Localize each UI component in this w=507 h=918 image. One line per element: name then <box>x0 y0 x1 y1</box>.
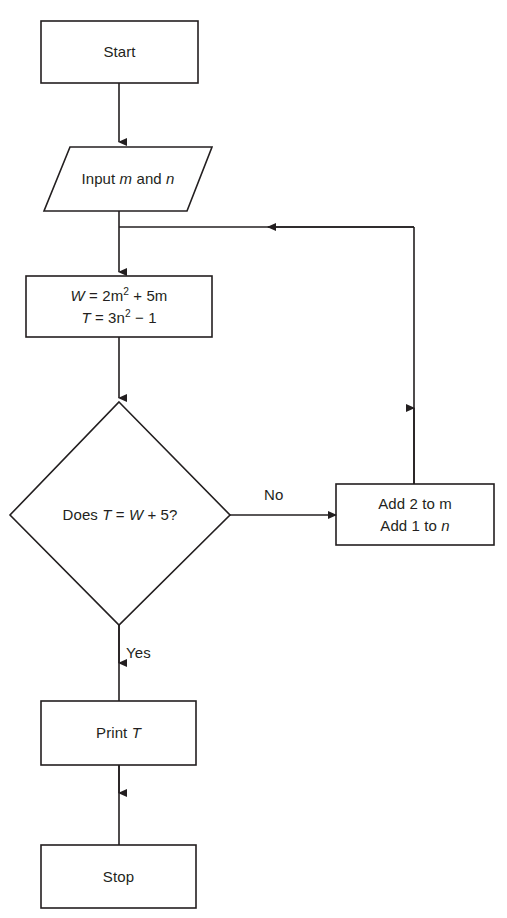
update-box-shape <box>336 484 494 545</box>
print-box-shape <box>41 701 196 765</box>
edge-label-no: No <box>264 486 283 503</box>
process-box-shape <box>26 276 212 337</box>
decision-diamond-shape <box>10 402 230 625</box>
input-parallelogram-shape <box>44 147 212 211</box>
edge-label-yes: Yes <box>126 644 151 661</box>
flowchart-shapes <box>0 0 507 918</box>
flowchart-canvas: Start Input m and n W = 2m2 + 5m T = 3n2… <box>0 0 507 918</box>
start-box-shape <box>41 21 198 83</box>
stop-box-shape <box>41 845 196 908</box>
